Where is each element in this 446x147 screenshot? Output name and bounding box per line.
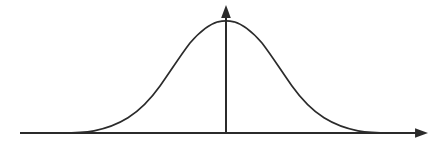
axis-arrow-right-icon [415,128,428,138]
gaussian-curve [20,21,412,133]
bell-curve-canvas [0,0,446,147]
axis-arrow-up-icon [221,5,231,18]
bell-curve-figure: Normal distribution bell curve [0,0,446,147]
